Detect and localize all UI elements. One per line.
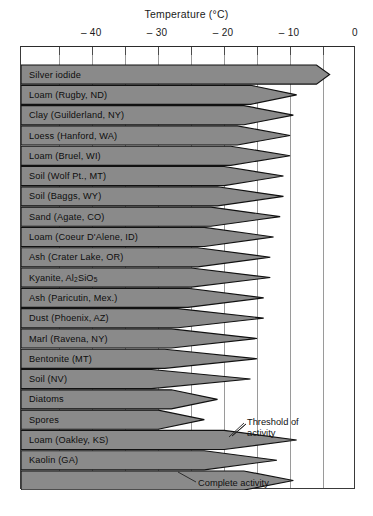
row-label-18: Loam (Oakley, KS) [29,435,108,445]
row-label-11: Ash (Paricutin, Mex.) [29,293,117,303]
x-tick-label-neg30: – 30 [147,27,168,38]
row-label-0: Silver iodide [29,70,81,80]
row-label-1: Loam (Rugby, ND) [29,90,107,100]
row-label-14: Bentonite (MT) [29,354,92,364]
row-label-9: Ash (Crater Lake, OR) [29,252,124,262]
annotation-threshold-line2: activity [247,428,275,438]
annotation-complete-activity: Complete activity [198,478,269,489]
row-label-7: Sand (Agate, CO) [29,212,104,222]
row-label-10: Kyanite, Al2SiO5 [29,273,97,283]
temperature-ice-nucleation-chart: Temperature (°C) – 40– 30– 20– 100 Silve… [0,0,373,516]
annotation-threshold-line1: Threshold of [247,417,299,427]
row-label-4: Loam (Bruel, WI) [29,151,101,161]
annotation-threshold-of-activity: Threshold of activity [247,417,299,439]
row-label-5: Soil (Wolf Pt., MT) [29,171,106,181]
row-label-19: Kaolin (GA) [29,455,78,465]
row-label-2: Clay (Guilderland, NY) [29,110,124,120]
x-tick-label-0: 0 [352,27,358,38]
row-label-12: Dust (Phoenix, AZ) [29,313,109,323]
row-label-17: Spores [29,415,59,425]
row-label-6: Soil (Baggs, WY) [29,191,101,201]
row-label-15: Soil (NV) [29,374,67,384]
row-label-13: Marl (Ravena, NY) [29,334,108,344]
row-label-16: Diatoms [29,394,64,404]
chart-title: Temperature (°C) [0,8,373,20]
x-tick-label-neg40: – 40 [81,27,102,38]
row-label-3: Loess (Hanford, WA) [29,131,117,141]
x-tick-label-neg20: – 20 [213,27,234,38]
x-tick-label-neg10: – 10 [279,27,300,38]
row-label-8: Loam (Coeur D'Alene, ID) [29,232,138,242]
plot-area: Silver iodideLoam (Rugby, ND)Clay (Guild… [20,46,355,489]
